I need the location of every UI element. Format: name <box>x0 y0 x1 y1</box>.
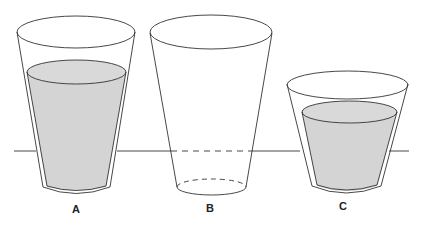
glass-b <box>150 15 272 195</box>
glass-a-water <box>27 72 126 191</box>
glass-b-bottom-back <box>177 179 246 187</box>
glasses-diagram <box>0 0 422 226</box>
glass-b-wall <box>150 33 272 187</box>
glass-c-water-surface <box>302 101 397 123</box>
glass-a-water-surface <box>27 60 126 84</box>
glass-c-rim <box>287 71 408 99</box>
glass-a-label: A <box>72 203 80 215</box>
glass-b-bottom-front <box>177 187 246 195</box>
glass-c <box>287 71 408 193</box>
glass-a <box>17 16 135 194</box>
glass-a-rim <box>17 16 135 48</box>
glass-b-label: B <box>206 202 214 214</box>
glass-b-rim <box>150 15 272 49</box>
glass-c-label: C <box>339 200 347 212</box>
